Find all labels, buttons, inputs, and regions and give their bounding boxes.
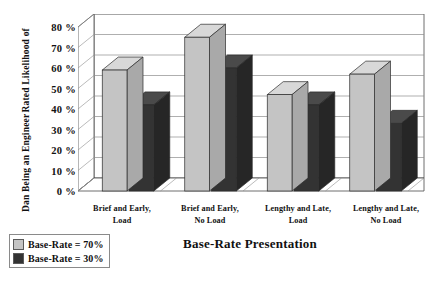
- bar-dark-4-side: [401, 110, 417, 191]
- x-axis-category-label: Lengthy and Late,No Load: [342, 203, 430, 233]
- bar-chart-figure: Rated Likelihood of Dan Being an Enginee…: [0, 0, 442, 287]
- plot-svg: [78, 14, 430, 204]
- x-axis-category-label-line: No Load: [166, 215, 254, 227]
- legend-item: Base-Rate = 30%: [13, 251, 104, 265]
- bar-dark-2-side: [236, 55, 252, 191]
- x-axis-category-label-line: Lengthy and Late,: [254, 203, 342, 215]
- x-axis-category-label: Lengthy and Late,Load: [254, 203, 342, 233]
- x-axis-category-label-line: Load: [78, 215, 166, 227]
- legend-label-series-1: Base-Rate = 70%: [28, 239, 104, 250]
- x-axis-category-label-line: Lengthy and Late,: [342, 203, 430, 215]
- y-axis-tick-label: 20 %: [51, 145, 76, 156]
- legend-swatch-series-2: [13, 253, 24, 264]
- bar-light-1-side: [127, 57, 143, 191]
- y-axis-tick-label: 50 %: [51, 83, 76, 94]
- x-axis-category-label: Brief and Early,Load: [78, 203, 166, 233]
- y-axis-tick-label: 70 %: [51, 42, 76, 53]
- x-axis-category-labels: Brief and Early,LoadBrief and Early,No L…: [78, 203, 430, 233]
- bar-dark-1-side: [154, 92, 170, 191]
- bar-light-2-side: [210, 24, 226, 191]
- bar-light-2-front: [185, 37, 210, 191]
- bar-light-4-front: [350, 74, 375, 191]
- bar-light-3-side: [292, 82, 308, 191]
- x-axis-category-label-line: Brief and Early,: [166, 203, 254, 215]
- scan-edge: [0, 282, 442, 287]
- y-axis-tick-label: 60 %: [51, 63, 76, 74]
- x-axis-category-label-line: No Load: [342, 215, 430, 227]
- x-axis-category-label-line: Load: [254, 215, 342, 227]
- x-axis-title: Base-Rate Presentation: [120, 236, 380, 252]
- x-axis-category-label: Brief and Early,No Load: [166, 203, 254, 233]
- plot-area: [78, 14, 430, 204]
- y-axis-tick-label: 40 %: [51, 104, 76, 115]
- y-axis-title-line1: Rated Likelihood of: [21, 28, 32, 113]
- y-axis-tick-label: 80 %: [51, 22, 76, 33]
- legend-label-series-2: Base-Rate = 30%: [28, 253, 104, 264]
- y-axis-tick-label: 30 %: [51, 124, 76, 135]
- bar-light-4-side: [375, 61, 391, 191]
- bar-light-3-front: [267, 95, 292, 191]
- legend-swatch-series-1: [13, 239, 24, 250]
- bar-dark-3-side: [319, 92, 335, 191]
- legend-item: Base-Rate = 70%: [13, 237, 104, 251]
- bar-light-1-front: [102, 70, 127, 191]
- x-axis-category-label-line: Brief and Early,: [78, 203, 166, 215]
- y-axis-tick-label: 10 %: [51, 165, 76, 176]
- y-axis-tick-label: 0 %: [57, 186, 76, 197]
- legend: Base-Rate = 70% Base-Rate = 30%: [9, 234, 110, 268]
- y-axis-title-line2: Dan Being an Engineer: [21, 114, 32, 212]
- y-axis-tick-labels: 0 %10 %20 %30 %40 %50 %60 %70 %80 %: [36, 14, 76, 202]
